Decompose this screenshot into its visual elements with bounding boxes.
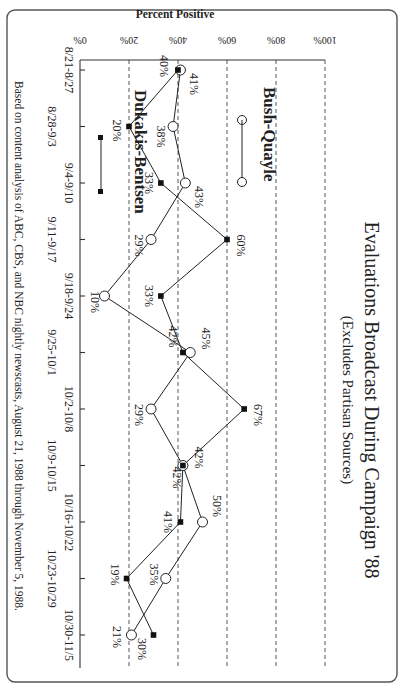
legend-bush: Bush-Quayle (238, 87, 280, 187)
data-label: 43% (192, 186, 206, 208)
data-label: 19% (108, 564, 122, 586)
filled-square-marker-icon (224, 237, 230, 243)
open-circle-marker-icon (146, 404, 156, 414)
open-circle-marker-icon (238, 178, 247, 187)
x-category-label: 10/30-11/5 (62, 609, 76, 661)
data-label: 33% (142, 285, 156, 307)
data-label: 20% (110, 120, 124, 142)
open-circle-marker-icon (198, 517, 208, 527)
data-label: 42% (192, 447, 206, 469)
legend-label-dukakis: Dukakis-Bentsen (131, 90, 150, 214)
open-circle-marker-icon (168, 122, 178, 132)
filled-square-marker-icon (180, 350, 186, 356)
data-label: 41% (187, 73, 201, 95)
data-label: 30% (135, 638, 149, 660)
data-label: 42% (170, 467, 184, 489)
filled-square-marker-icon (178, 519, 184, 525)
filled-square-marker-icon (158, 293, 164, 299)
data-label: 40% (157, 55, 171, 77)
x-category-label: 10/9-10/15 (45, 439, 59, 492)
x-category-label: 10/16-10/22 (62, 493, 76, 552)
x-category-label: 10/2-10/8 (62, 386, 76, 433)
y-tick-label: 80% (267, 35, 285, 46)
x-category-label: 8/28-9/3 (45, 106, 59, 147)
source-caption: Based on content analysis of ABC, CBS, a… (12, 81, 25, 611)
y-tick-label: 60% (218, 35, 236, 46)
open-circle-marker-icon (161, 574, 171, 584)
y-axis-label: Percent Positive (136, 8, 215, 20)
data-label: 10% (88, 291, 102, 313)
data-labels: 41%38%43%29%10%45%29%42%50%35%21%40%20%3… (88, 55, 266, 660)
legend-label-bush: Bush-Quayle (260, 87, 279, 182)
data-label: 67% (251, 404, 265, 426)
open-circle-marker-icon (146, 235, 156, 245)
filled-square-marker-icon (151, 632, 157, 638)
filled-square-marker-icon (241, 406, 247, 412)
line-chart: Evaluations Broadcast During Campaign '8… (0, 0, 405, 694)
data-label: 45% (199, 328, 213, 350)
filled-square-marker-icon (158, 180, 164, 186)
filled-square-marker-icon (124, 576, 130, 582)
data-label: 50% (210, 495, 224, 517)
filled-square-marker-icon (98, 189, 103, 194)
x-category-label: 9/11-9/17 (45, 216, 59, 262)
open-circle-marker-icon (185, 348, 195, 358)
y-tick-label: 0% (73, 35, 86, 46)
x-axis: 8/21-8/278/28-9/39/4-9/109/11-9/179/18-9… (45, 47, 85, 668)
data-label: 60% (234, 235, 248, 257)
y-tick-label: 40% (169, 35, 187, 46)
legend-dukakis: Dukakis-Bentsen (98, 90, 150, 214)
x-category-label: 9/4-9/10 (62, 163, 76, 204)
data-label: 21% (110, 626, 124, 648)
x-category-label: 9/25-10/1 (45, 329, 59, 376)
chart-subtitle: (Excludes Partisan Sources) (339, 316, 356, 484)
data-label: 29% (132, 404, 146, 426)
data-label: 41% (161, 511, 175, 533)
series-layer (100, 65, 247, 640)
x-category-label: 9/18-9/24 (62, 273, 76, 320)
y-tick-label: 20% (120, 35, 138, 46)
data-label: 29% (132, 235, 146, 257)
x-category-label: 10/23-10/29 (45, 549, 59, 608)
data-label: 38% (154, 126, 168, 148)
data-label: 42% (166, 326, 180, 348)
open-circle-marker-icon (180, 178, 190, 188)
legend: Bush-Quayle Dukakis-Bentsen (98, 87, 279, 214)
y-axis: 0%20%40%60%80%100% (73, 35, 336, 60)
x-category-label: 8/21-8/27 (62, 47, 76, 94)
y-tick-label: 100% (313, 35, 336, 46)
data-label: 35% (147, 564, 161, 586)
filled-square-marker-icon (175, 67, 181, 73)
chart-title: Evaluations Broadcast During Campaign '8… (360, 222, 383, 579)
rotated-figure: Evaluations Broadcast During Campaign '8… (0, 0, 405, 694)
